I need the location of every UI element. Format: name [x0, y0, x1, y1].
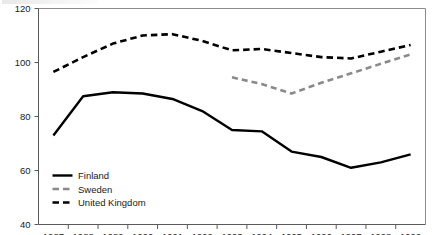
x-tick-label: 1991: [162, 231, 183, 235]
legend-label-united-kingdom: United Kingdom: [78, 197, 146, 208]
x-tick-label: 1989: [102, 231, 123, 235]
x-tick-label: 1997: [341, 231, 362, 235]
chart-legend: FinlandSwedenUnited Kingdom: [53, 170, 146, 208]
series-line-united-kingdom: [53, 34, 410, 72]
y-tick-label: 80: [20, 111, 31, 122]
x-axis-tick-labels: 1987198819891990199119921993199419951996…: [43, 231, 421, 235]
line-chart: 120100806040 198719881989199019911992199…: [0, 0, 432, 235]
data-series-group: [53, 34, 410, 168]
y-tick-label: 60: [20, 165, 31, 176]
x-tick-label: 1988: [73, 231, 94, 235]
x-axis-ticks: [68, 225, 395, 230]
y-axis-tick-labels: 120100806040: [15, 3, 31, 230]
y-tick-label: 100: [15, 57, 31, 68]
legend-label-sweden: Sweden: [78, 184, 112, 195]
x-tick-label: 1998: [370, 231, 391, 235]
y-tick-label: 40: [20, 219, 31, 230]
series-line-sweden: [232, 54, 411, 93]
x-tick-label: 1990: [132, 231, 153, 235]
x-tick-label: 1994: [251, 231, 272, 235]
y-tick-label: 120: [15, 3, 31, 14]
x-tick-label: 1996: [311, 231, 332, 235]
x-tick-label: 1987: [43, 231, 64, 235]
legend-label-finland: Finland: [78, 170, 109, 181]
x-tick-label: 1999: [400, 231, 421, 235]
series-line-finland: [53, 92, 410, 168]
x-tick-label: 1993: [221, 231, 242, 235]
y-axis-ticks: [35, 9, 39, 225]
x-tick-label: 1995: [281, 231, 302, 235]
chart-plot-area: 120100806040 198719881989199019911992199…: [0, 0, 432, 235]
x-tick-label: 1992: [192, 231, 213, 235]
